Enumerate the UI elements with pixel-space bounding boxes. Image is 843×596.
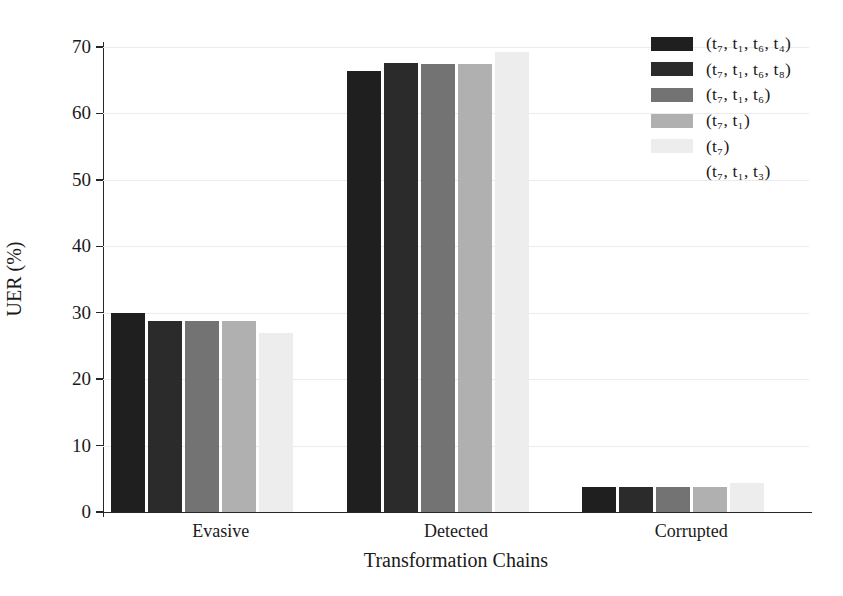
legend-label: (t₇, t₁, t₃) xyxy=(706,161,770,182)
bar xyxy=(148,321,182,512)
legend-item[interactable]: (t₇) xyxy=(651,133,841,159)
legend-label: (t₇) xyxy=(706,136,729,157)
gridline xyxy=(103,246,809,247)
legend-label: (t₇, t₁, t₆, t₄) xyxy=(706,33,791,54)
legend-swatch-icon xyxy=(651,114,693,128)
y-tick-label: 10 xyxy=(72,435,91,457)
legend-label: (t₇, t₁) xyxy=(706,110,750,131)
x-tick-label-corrupted: Corrupted xyxy=(655,521,728,542)
y-tick-mark xyxy=(96,113,103,114)
legend-swatch-icon xyxy=(651,37,693,51)
y-tick-mark xyxy=(96,378,103,379)
bar xyxy=(259,333,293,512)
y-tick-label: 0 xyxy=(82,501,92,523)
y-tick-label: 60 xyxy=(72,102,91,124)
bar xyxy=(421,64,455,512)
x-tick-label-detected: Detected xyxy=(424,521,488,542)
legend-item[interactable]: (t₇, t₁, t₃) xyxy=(651,159,841,185)
legend-item[interactable]: (t₇, t₁, t₆, t₄) xyxy=(651,31,841,57)
bar xyxy=(693,487,727,512)
gridline xyxy=(103,313,809,314)
legend-swatch-icon xyxy=(651,139,693,153)
bar-chart-figure: 010203040506070 Transformation Chains UE… xyxy=(0,0,843,596)
y-tick-label: 20 xyxy=(72,368,91,390)
x-axis-title: Transformation Chains xyxy=(364,549,548,572)
bar xyxy=(222,321,256,512)
y-tick-mark xyxy=(96,46,103,47)
legend-swatch-icon xyxy=(651,62,693,76)
y-axis-title: UER (%) xyxy=(3,242,26,317)
bar xyxy=(582,487,616,512)
x-tick-label-evasive: Evasive xyxy=(192,521,249,542)
bar xyxy=(347,71,381,512)
bar xyxy=(185,321,219,512)
legend-swatch-icon xyxy=(651,88,693,102)
y-tick-label: 40 xyxy=(72,235,91,257)
legend-item[interactable]: (t₇, t₁) xyxy=(651,108,841,134)
y-tick-label: 50 xyxy=(72,169,91,191)
y-tick-mark xyxy=(96,246,103,247)
legend-item[interactable]: (t₇, t₁, t₆) xyxy=(651,82,841,108)
bar xyxy=(458,64,492,512)
bar xyxy=(495,52,529,512)
y-tick-mark xyxy=(96,179,103,180)
legend-label: (t₇, t₁, t₆) xyxy=(706,84,770,105)
bar xyxy=(111,313,145,512)
legend-swatch-icon xyxy=(651,165,693,179)
legend-label: (t₇, t₁, t₆, t₈) xyxy=(706,59,791,80)
bar xyxy=(384,63,418,512)
legend-item[interactable]: (t₇, t₁, t₆, t₈) xyxy=(651,57,841,83)
y-tick-mark xyxy=(96,312,103,313)
bar xyxy=(656,487,690,512)
y-tick-mark xyxy=(96,445,103,446)
bar xyxy=(619,487,653,512)
y-tick-label: 30 xyxy=(72,302,91,324)
y-tick-mark xyxy=(96,511,103,512)
chart-legend: (t₇, t₁, t₆, t₄)(t₇, t₁, t₆, t₈)(t₇, t₁,… xyxy=(651,31,841,185)
bar xyxy=(730,483,764,512)
y-tick-label: 70 xyxy=(72,36,91,58)
